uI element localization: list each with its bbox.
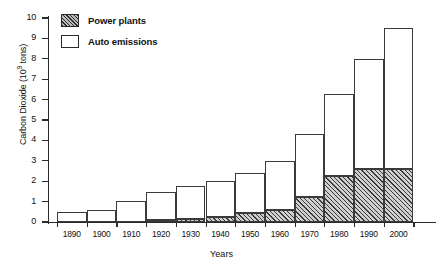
legend-swatch-auto-emissions-icon: [61, 35, 79, 48]
bar-segment-power-plants-1960: [265, 210, 295, 222]
chart-legend: Power plants Auto emissions: [61, 14, 157, 56]
bar-segment-power-plants-1980: [324, 176, 354, 222]
bar-1920[interactable]: [146, 192, 176, 222]
y-tick-5: [42, 119, 48, 120]
legend-label-auto-emissions: Auto emissions: [88, 37, 157, 47]
x-tick-1940: [206, 222, 207, 227]
y-axis-title: Carbon Dioxide (109 tons): [15, 20, 28, 170]
bar-1950[interactable]: [235, 173, 265, 222]
y-tick-8: [42, 58, 48, 59]
legend-swatch-power-plants-icon: [61, 14, 79, 27]
bar-segment-auto-emissions-1960: [265, 161, 295, 210]
bar-1970[interactable]: [295, 134, 325, 222]
bar-segment-auto-emissions-1950: [235, 173, 265, 213]
x-tick-1970: [295, 222, 296, 227]
bar-segment-power-plants-1940: [206, 217, 236, 222]
y-tick-7: [42, 79, 48, 80]
y-tick-label-2: 2: [14, 176, 36, 185]
x-tick-1910: [116, 222, 117, 227]
y-tick-10: [42, 17, 48, 18]
x-tick-1890: [57, 222, 58, 227]
x-tick-2000: [384, 222, 385, 227]
y-tick-3: [42, 160, 48, 161]
bar-1900[interactable]: [87, 210, 117, 222]
x-tick-1920: [146, 222, 147, 227]
x-axis-line: [48, 222, 436, 223]
bar-segment-auto-emissions-1930: [176, 186, 206, 219]
bar-1930[interactable]: [176, 186, 206, 222]
x-tick-1980: [324, 222, 325, 227]
x-axis-title: Years: [0, 249, 443, 259]
bar-segment-auto-emissions-1940: [206, 181, 236, 217]
y-axis-title-exponent: 9: [16, 66, 23, 70]
x-tick-1990: [354, 222, 355, 227]
bar-1910[interactable]: [116, 201, 146, 222]
bar-2000[interactable]: [384, 28, 414, 222]
y-tick-label-1: 1: [14, 197, 36, 206]
y-tick-9: [42, 38, 48, 39]
plot-area: 012345678910 189019001910192019301940195…: [0, 0, 443, 275]
y-axis-title-suffix: tons): [18, 44, 28, 66]
y-tick-label-0: 0: [14, 217, 36, 226]
bar-segment-power-plants-1930: [176, 219, 206, 222]
y-axis-line: [48, 16, 49, 224]
bar-segment-auto-emissions-2000: [384, 28, 414, 169]
x-tick-end: [413, 222, 414, 227]
bar-segment-power-plants-2000: [384, 169, 414, 222]
bar-segment-auto-emissions-1980: [324, 94, 354, 177]
x-tick-1960: [265, 222, 266, 227]
bar-1960[interactable]: [265, 161, 295, 222]
bar-segment-auto-emissions-1900: [87, 210, 117, 222]
bar-segment-power-plants-1950: [235, 213, 265, 222]
x-tick-1950: [235, 222, 236, 227]
bar-1940[interactable]: [206, 181, 236, 222]
bar-1980[interactable]: [324, 93, 354, 222]
y-tick-1: [42, 201, 48, 202]
x-tick-1930: [176, 222, 177, 227]
bar-segment-power-plants-1970: [295, 197, 325, 223]
legend-item-power-plants: Power plants: [61, 14, 157, 27]
x-tick-1900: [87, 222, 88, 227]
bar-segment-auto-emissions-1920: [146, 192, 176, 220]
x-tick-label-2000: 2000: [382, 230, 416, 239]
y-tick-0: [42, 221, 48, 222]
bar-segment-auto-emissions-1910: [116, 201, 146, 222]
co2-stacked-bar-chart: 012345678910 189019001910192019301940195…: [0, 0, 443, 275]
y-tick-4: [42, 140, 48, 141]
bar-1890[interactable]: [57, 212, 87, 222]
bar-segment-power-plants-1920: [146, 220, 176, 222]
bar-segment-auto-emissions-1970: [295, 134, 325, 196]
bar-segment-auto-emissions-1990: [354, 59, 384, 169]
y-tick-6: [42, 99, 48, 100]
legend-item-auto-emissions: Auto emissions: [61, 35, 157, 48]
bar-segment-auto-emissions-1890: [57, 212, 87, 222]
bar-segment-power-plants-1990: [354, 169, 384, 222]
y-axis-title-prefix: Carbon Dioxide (10: [18, 69, 28, 145]
y-tick-2: [42, 181, 48, 182]
bar-1990[interactable]: [354, 59, 384, 222]
legend-label-power-plants: Power plants: [88, 16, 146, 26]
